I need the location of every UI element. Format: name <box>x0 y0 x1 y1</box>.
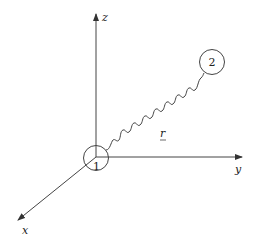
z-axis-label: z <box>101 11 108 24</box>
separation-label: r <box>160 127 166 140</box>
separation-wavy-line <box>106 73 204 150</box>
x-axis <box>18 157 96 220</box>
x-axis-label: x <box>22 224 29 237</box>
y-axis-label: y <box>234 163 242 176</box>
particle-1-label: 1 <box>93 160 100 173</box>
coordinate-diagram: z y x 1 2 r <box>0 0 255 242</box>
particle-2-label: 2 <box>209 56 216 69</box>
